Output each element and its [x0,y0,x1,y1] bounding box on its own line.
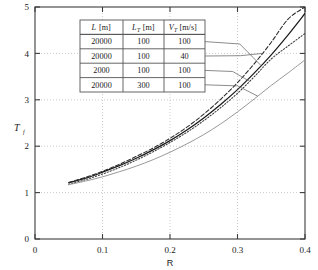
x-axis-title-label: R [167,258,174,268]
x-axis-tick-label: 0 [33,245,38,255]
y-axis-tick-label: 4 [25,49,30,59]
y-axis-tick-label: 3 [25,95,30,105]
legend-table-header-cell: LT[m] [131,23,155,33]
y-axis-tick-label: 1 [25,188,30,198]
x-axis-tick-label: 0.1 [97,245,108,255]
x-axis-tick-label: 0.4 [299,245,311,255]
legend-header-unit: [m] [99,23,111,32]
legend-header-unit: [m] [143,23,155,32]
legend-table: L[m]LT[m]VT[m/s] 20000100100200001004020… [80,20,205,92]
x-axis-tick-label: 0.3 [232,245,244,255]
legend-table-cell: 100 [178,81,190,90]
legend-table-cell: 40 [180,52,188,61]
figure-canvas: 012345 00.10.20.30.4 T f R L[m]LT[m]VT[m… [0,0,318,270]
legend-header-symbol: L [91,23,97,32]
legend-table-cell: 20000 [91,52,111,61]
legend-table-cell: 20000 [91,81,111,90]
legend-table-header-row: L[m]LT[m]VT[m/s] [91,23,198,33]
y-axis-tick-label: 0 [25,234,30,244]
legend-table-cell: 2000 [93,66,109,75]
legend-header-unit: [m/s] [180,23,198,32]
legend-table-cell: 100 [137,52,149,61]
y-axis-tick-label: 5 [25,2,30,12]
legend-table-header-cell: VT[m/s] [169,23,197,33]
y-axis-tick-label: 2 [25,141,30,151]
legend-table-cell: 100 [137,66,149,75]
legend-table-cell: 100 [178,66,190,75]
legend-table-cell: 20000 [91,37,111,46]
legend-table-cell: 300 [137,81,149,90]
legend-header-symbol: L [131,23,137,32]
x-axis-title: R [167,258,174,268]
legend-table-header-cell: L[m] [91,23,111,32]
legend-table-cell: 100 [137,37,149,46]
x-axis-tick-label: 0.2 [164,245,175,255]
legend-table-cell: 100 [178,37,190,46]
